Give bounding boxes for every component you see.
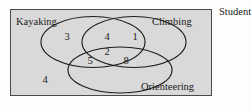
set-label-orienteering: Orienteering xyxy=(141,81,195,92)
region-count-kayaking-only: 3 xyxy=(64,31,69,42)
set-label-climbing: Climbing xyxy=(152,16,192,27)
region-count-kayaking-climbing: 4 xyxy=(104,31,110,42)
venn-diagram-canvas: Kayaking Climbing Orienteering Students … xyxy=(0,0,251,111)
region-count-kayaking-orienteering: 5 xyxy=(87,55,92,66)
universe-label-students: Students xyxy=(219,6,251,17)
region-count-climbing-only: 1 xyxy=(132,31,137,42)
region-count-all-three: 2 xyxy=(104,46,109,57)
venn-diagram-figure: Kayaking Climbing Orienteering Students … xyxy=(0,0,251,111)
set-label-kayaking: Kayaking xyxy=(16,16,58,27)
region-count-climbing-orienteering: 8 xyxy=(123,55,128,66)
region-count-outside-all: 4 xyxy=(42,74,48,85)
